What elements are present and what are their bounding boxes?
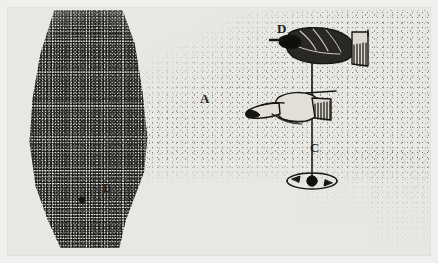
label-d: D [277, 22, 287, 35]
pendulum-ball [307, 176, 317, 186]
label-a: A [200, 92, 210, 105]
orbit-arrow-left [292, 176, 300, 182]
orbit-arrow-right [324, 180, 332, 186]
label-b: B [103, 182, 111, 194]
lower-pointing-hand [246, 91, 336, 124]
illustration-plate: A B C D [0, 0, 438, 263]
apparatus-drawing [0, 0, 438, 263]
orbit-and-ball [287, 173, 337, 189]
label-c: C [310, 141, 320, 154]
point-b-marker [79, 197, 85, 203]
